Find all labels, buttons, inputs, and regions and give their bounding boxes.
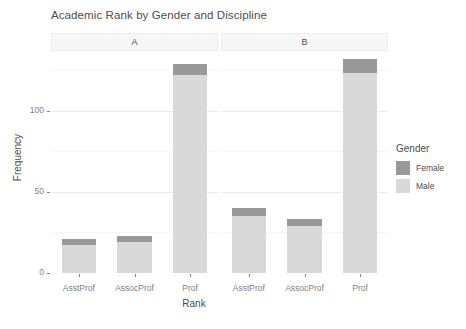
bar-segment-female[interactable] (343, 59, 378, 74)
bar-stack[interactable] (117, 236, 152, 273)
bar-segment-female[interactable] (117, 236, 152, 242)
x-tick-mark (249, 274, 250, 277)
legend-title: Gender (396, 143, 466, 154)
legend-label: Female (416, 163, 444, 173)
facet-panel-b (221, 54, 388, 273)
legend-item-female[interactable]: Female (396, 159, 466, 176)
bar-segment-male[interactable] (343, 73, 378, 273)
x-tick-mark (135, 274, 136, 277)
legend-entries: FemaleMale (396, 159, 466, 194)
y-axis-title: Frequency (12, 103, 23, 213)
facet-strip-b: B (221, 33, 388, 51)
legend-item-male[interactable]: Male (396, 177, 466, 194)
bar-stack[interactable] (343, 59, 378, 273)
chart-root: Academic Rank by Gender and Discipline A… (0, 0, 466, 329)
x-tick-mark (190, 274, 191, 277)
legend-label: Male (416, 181, 434, 191)
x-tick-mark (305, 274, 306, 277)
bar-stack[interactable] (232, 208, 267, 273)
bar-segment-female[interactable] (62, 239, 97, 245)
x-tick-mark (79, 274, 80, 277)
y-tick-label: 0 (39, 267, 44, 277)
facet-strip-label-a: A (131, 37, 137, 47)
bar-segment-male[interactable] (117, 242, 152, 273)
facet-strip-a: A (51, 33, 218, 51)
bar-segment-female[interactable] (287, 219, 322, 225)
bar-segment-male[interactable] (173, 75, 208, 273)
legend: Gender FemaleMale (396, 143, 466, 195)
bar-segment-male[interactable] (62, 245, 97, 273)
y-tick-label: 50 (35, 186, 44, 196)
bar-stack[interactable] (173, 64, 208, 273)
legend-swatch-male (396, 179, 410, 193)
x-tick-mark (360, 274, 361, 277)
bar-segment-female[interactable] (173, 64, 208, 75)
y-tick-label: 100 (30, 105, 44, 115)
bar-segment-female[interactable] (232, 208, 267, 216)
bar-segment-male[interactable] (287, 226, 322, 273)
bar-segment-male[interactable] (232, 216, 267, 273)
legend-swatch-female (396, 161, 410, 175)
x-axis-title: Rank (0, 298, 388, 309)
bar-stack[interactable] (287, 219, 322, 273)
x-tick-label: Prof (320, 283, 400, 293)
y-tick-mark (47, 192, 50, 193)
facet-strip-label-b: B (301, 37, 307, 47)
y-tick-mark (47, 111, 50, 112)
y-tick-mark (47, 273, 50, 274)
facet-panel-a (51, 54, 218, 273)
bar-stack[interactable] (62, 239, 97, 273)
chart-title: Academic Rank by Gender and Discipline (51, 9, 267, 21)
